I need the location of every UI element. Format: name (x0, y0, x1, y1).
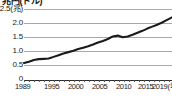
plot-area (24, 9, 172, 79)
x-tick-label: 2010 (116, 82, 132, 91)
line-series (24, 9, 172, 79)
x-tick-label: 2019(年) (152, 82, 172, 91)
x-tick-label: 2005 (92, 82, 108, 91)
y-tick-label: 1.5 (12, 33, 23, 41)
x-tick-label: 1989 (15, 82, 31, 91)
x-tick-label: 1995 (44, 82, 60, 91)
y-axis-labels: 2.5(兆) 2.0 1.5 1.0 0.5 0 (0, 0, 23, 90)
x-tick-label: 2000 (68, 82, 84, 91)
y-tick-label: 2.5(兆) (0, 5, 23, 13)
chart-container: 兆円(ドル) 2.5(兆) 2.0 1.5 1.0 0.5 0 (0, 0, 172, 104)
y-tick-label: 1.0 (12, 47, 23, 55)
y-tick-label: 0.5 (12, 61, 23, 69)
y-tick-label: 2.0 (12, 19, 23, 27)
x-axis-labels: 1989 1995 2000 2005 2010 2015 2019(年) (0, 82, 172, 96)
